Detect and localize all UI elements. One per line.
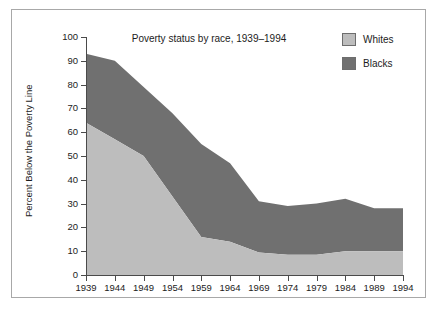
y-tick-label: 100 [54,32,78,42]
legend-swatch-blacks [342,57,356,70]
y-tick-mark [81,227,86,228]
x-tick-mark [288,276,289,281]
x-tick-label: 1994 [383,283,423,293]
y-tick-mark [81,85,86,86]
x-tick-mark [317,276,318,281]
y-tick-mark [81,108,86,109]
x-tick-mark [173,276,174,281]
y-tick-mark [81,204,86,205]
y-tick-label: 0 [54,270,78,280]
y-tick-label: 50 [54,151,78,161]
y-tick-label: 60 [54,127,78,137]
x-tick-mark [403,276,404,281]
legend-item-whites: Whites [342,33,422,46]
y-tick-mark [81,61,86,62]
y-tick-mark [81,180,86,181]
y-axis-line [86,37,87,276]
x-tick-mark [230,276,231,281]
legend-label-whites: Whites [363,35,394,45]
y-tick-mark [81,37,86,38]
chart-figure: Poverty status by race, 1939–1994 Percen… [11,9,426,298]
y-tick-mark [81,132,86,133]
legend-label-blacks: Blacks [363,59,392,69]
x-tick-mark [144,276,145,281]
x-tick-mark [374,276,375,281]
legend-swatch-whites [342,33,356,46]
y-tick-mark [81,156,86,157]
y-tick-label: 40 [54,175,78,185]
x-tick-mark [115,276,116,281]
legend-item-blacks: Blacks [342,57,422,70]
x-axis-line [86,275,404,276]
x-tick-mark [259,276,260,281]
x-tick-mark [201,276,202,281]
chart-legend: Whites Blacks [342,33,422,81]
y-tick-mark [81,251,86,252]
y-tick-label: 20 [54,222,78,232]
y-tick-label: 30 [54,199,78,209]
x-tick-mark [345,276,346,281]
y-tick-label: 80 [54,80,78,90]
y-tick-label: 70 [54,103,78,113]
y-tick-label: 10 [54,246,78,256]
y-tick-label: 90 [54,56,78,66]
y-axis-title: Percent Below the Poverty Line [24,71,34,231]
x-tick-mark [86,276,87,281]
